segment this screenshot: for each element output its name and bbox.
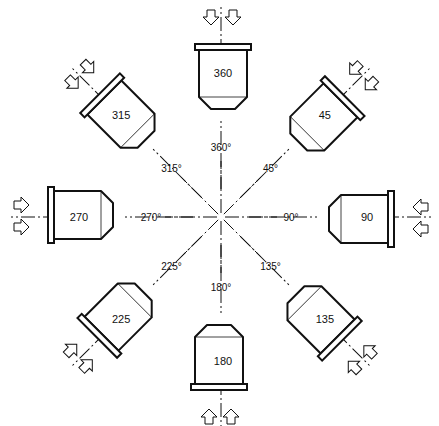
angle-label: 315° [161,163,182,174]
container-number-label: 45 [319,109,331,121]
container-180 [191,245,247,426]
container-number-label: 315 [112,109,130,121]
container-number-label: 225 [112,313,130,325]
container-270 [11,187,193,243]
angle-label: 360° [211,142,232,153]
container-number-label: 135 [316,313,334,325]
container-number-label: 360 [214,67,232,79]
container-number-label: 180 [214,355,232,367]
center-lines [165,161,277,273]
angle-label: 180° [211,282,232,293]
container-number-label: 90 [361,211,373,223]
container-number-label: 270 [70,211,88,223]
container-360 [195,7,251,189]
orientation-diagram: 360°36045°4590°90135°135180°180225°22527… [0,0,439,426]
angle-label: 270° [141,212,162,223]
angle-label: 45° [263,163,278,174]
angle-label: 90° [283,212,298,223]
angle-label: 225° [161,261,182,272]
angle-label: 135° [260,261,281,272]
labels-group: 360°36045°4590°90135°135180°180225°22527… [70,67,373,367]
container-90 [249,191,431,247]
